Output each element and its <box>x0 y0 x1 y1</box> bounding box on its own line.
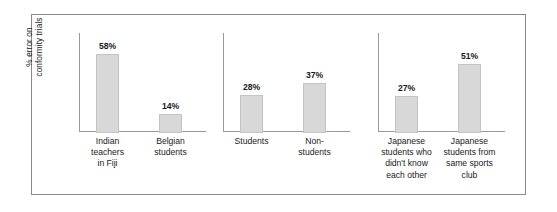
cat-line: teachers <box>76 147 139 158</box>
cat-line: Belgian <box>139 136 202 147</box>
bar-panel-1-item-2 <box>159 114 182 133</box>
cat-line: club <box>436 170 503 181</box>
category-label-panel-3-item-1: Japanese students who didn't know each o… <box>373 136 440 181</box>
cat-line: in Fiji <box>76 158 139 169</box>
chart-panel-2: 28% Students 37% Non- students <box>223 33 350 133</box>
cat-line: same sports <box>436 158 503 169</box>
cat-line: students who <box>373 147 440 158</box>
bar-value-panel-1-item-1: 58% <box>86 41 129 51</box>
bar-panel-3-item-1 <box>395 96 418 133</box>
bar-value-panel-3-item-1: 27% <box>385 83 428 93</box>
bar-panel-3-item-2 <box>458 64 481 133</box>
category-label-panel-1-item-1: Indian teachers in Fiji <box>76 136 139 170</box>
panel-2-y-axis <box>223 33 224 132</box>
bar-value-panel-2-item-1: 28% <box>230 82 273 92</box>
category-label-panel-2-item-2: Non- students <box>283 136 346 158</box>
panel-3-y-axis <box>378 33 379 132</box>
cat-line: Indian <box>76 136 139 147</box>
bar-panel-2-item-1 <box>240 95 263 133</box>
panel-1-y-axis <box>79 33 80 132</box>
bar-value-panel-1-item-2: 14% <box>149 101 192 111</box>
cat-line: Japanese <box>373 136 440 147</box>
bar-panel-1-item-1 <box>96 54 119 133</box>
cat-line: Students <box>220 136 283 147</box>
cat-line: didn't know <box>373 158 440 169</box>
cat-line: students from <box>436 147 503 158</box>
y-axis-label: % error on conformity trials <box>20 0 50 95</box>
cat-line: students <box>283 147 346 158</box>
cat-line: Non- <box>283 136 346 147</box>
cat-line: Japanese <box>436 136 503 147</box>
chart-panel-1: 58% Indian teachers in Fiji 14% Belgian … <box>79 33 206 133</box>
bar-value-panel-3-item-2: 51% <box>448 51 491 61</box>
conformity-error-bar-chart-figure: % error on conformity trials 58% Indian … <box>0 0 557 212</box>
cat-line: each other <box>373 170 440 181</box>
chart-panel-3: 27% Japanese students who didn't know ea… <box>378 33 505 133</box>
y-axis-label-line-1: % error on <box>25 17 36 76</box>
y-axis-label-line-2: conformity trials <box>35 17 46 76</box>
bar-value-panel-2-item-2: 37% <box>293 70 336 80</box>
category-label-panel-3-item-2: Japanese students from same sports club <box>436 136 503 181</box>
category-label-panel-2-item-1: Students <box>220 136 283 147</box>
cat-line: students <box>139 147 202 158</box>
bar-panel-2-item-2 <box>303 83 326 133</box>
category-label-panel-1-item-2: Belgian students <box>139 136 202 158</box>
